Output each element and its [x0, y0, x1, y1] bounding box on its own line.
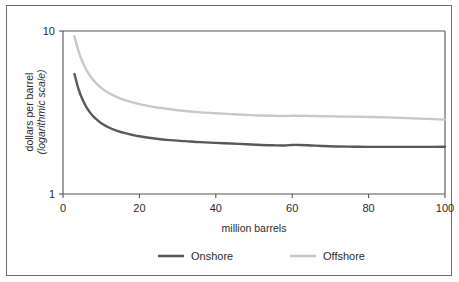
legend-label-onshore: Onshore: [191, 250, 233, 262]
y-axis-title: dollars per barrel (logarithmic scale): [23, 69, 47, 154]
y-tick-label: 10: [43, 25, 55, 37]
x-tick-label: 20: [133, 202, 145, 214]
x-axis-title: million barrels: [222, 222, 287, 234]
x-tick-label: 100: [436, 202, 454, 214]
y-tick-label: 1: [49, 188, 55, 200]
legend-label-offshore: Offshore: [323, 250, 365, 262]
series-line-onshore: [74, 74, 445, 147]
line-chart: 110 020406080100 dollars per barrel (log…: [0, 0, 459, 282]
x-axis-ticks: [63, 194, 445, 198]
figure-container: 110 020406080100 dollars per barrel (log…: [0, 0, 459, 282]
y-axis-ticks: [59, 31, 63, 194]
series-line-offshore: [74, 36, 445, 119]
x-tick-label: 80: [362, 202, 374, 214]
x-tick-label: 0: [60, 202, 66, 214]
data-series-group: [74, 36, 445, 147]
y-axis-title-line1: dollars per barrel: [23, 73, 35, 152]
x-axis-tick-labels: 020406080100: [60, 202, 454, 214]
chart-legend: OnshoreOffshore: [158, 250, 365, 262]
plot-axes: [63, 31, 445, 194]
x-tick-label: 40: [210, 202, 222, 214]
x-tick-label: 60: [286, 202, 298, 214]
y-axis-title-line2: (logarithmic scale): [35, 69, 47, 154]
